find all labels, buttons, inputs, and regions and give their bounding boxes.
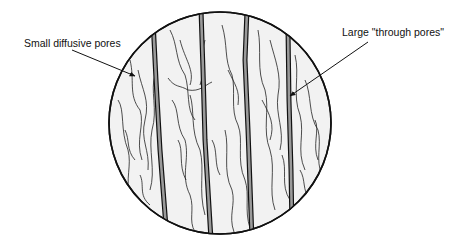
pore-diagram: [0, 0, 467, 251]
arrow-small-pores: [72, 50, 135, 76]
magnified-circle: [109, 12, 331, 234]
